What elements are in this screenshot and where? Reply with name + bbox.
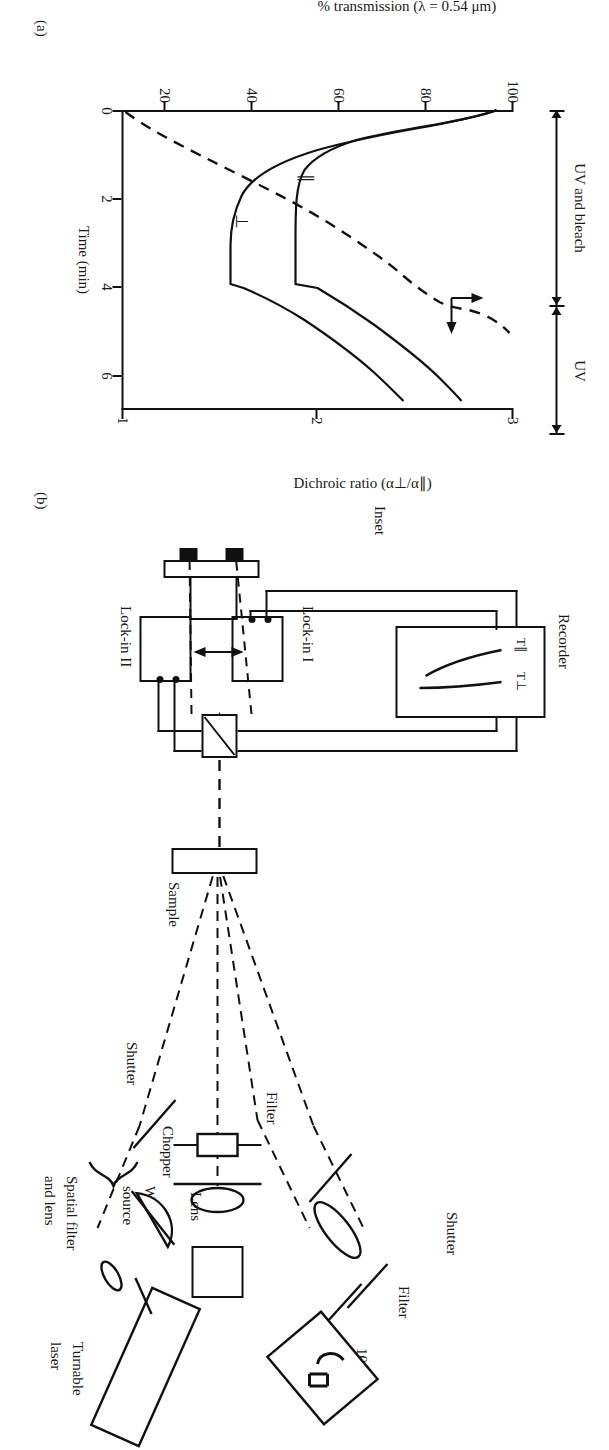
curve-label-perpendicular: ⊥: [230, 214, 251, 229]
panel-a-chart: UV and bleach UV 100 80 60 40 20 3: [0, 14, 609, 484]
y-ticklabel-left-60: 60: [330, 88, 347, 103]
y-ticklabel-right-1: 1: [114, 417, 131, 425]
figure-page: UV and bleach UV 100 80 60 40 20 3: [0, 0, 609, 1450]
panel-b-caption: (b): [32, 492, 49, 510]
x-ticklabel-0: 0: [97, 107, 114, 115]
chart-curves: [121, 110, 513, 410]
panel-a-caption: (a): [32, 20, 49, 37]
y-ticklabel-left-80: 80: [417, 88, 434, 103]
x-ticklabel-4: 4: [97, 283, 114, 291]
figure-rotated-canvas: UV and bleach UV 100 80 60 40 20 3: [0, 0, 609, 1450]
spatial-filter-lens: [136, 1185, 181, 1247]
bracket-arrowheads: [519, 14, 609, 484]
y-axis-label-left: % transmission (λ = 0.54 μm): [317, 0, 496, 15]
laser-arm-optics: [0, 486, 609, 1450]
y-ticklabel-left-20: 20: [156, 88, 173, 103]
pointer-up-head: [471, 293, 483, 303]
y-ticklabel-left-40: 40: [243, 88, 260, 103]
laser-pinhole: [97, 1259, 125, 1294]
x-ticklabel-6: 6: [97, 372, 114, 380]
panel-b-schematic: Inset Recorder T∥ T⊥ Lock-in I Lock-in I…: [0, 486, 609, 1450]
curve-label-parallel: ∥: [295, 174, 316, 183]
y-ticklabel-right-3: 3: [504, 417, 521, 425]
bracket-label-uv-and-bleach: UV and bleach: [570, 163, 587, 253]
x-ticklabel-2: 2: [97, 195, 114, 203]
y-ticklabel-left-100: 100: [504, 81, 521, 104]
curve-perpendicular: [230, 110, 496, 401]
shutter-bottom-bar: [133, 1100, 175, 1148]
plot-area: 100 80 60 40 20 3 2 1 0 2: [121, 110, 513, 410]
curve-parallel: [295, 110, 496, 401]
spatial-filter-brace: [89, 1162, 137, 1186]
bracket-label-uv: UV: [570, 360, 587, 382]
pointer-right-head: [446, 322, 456, 334]
laser-body: [91, 1288, 200, 1446]
x-axis-label: Time (min): [74, 226, 91, 294]
y-ticklabel-right-2: 2: [308, 417, 325, 425]
